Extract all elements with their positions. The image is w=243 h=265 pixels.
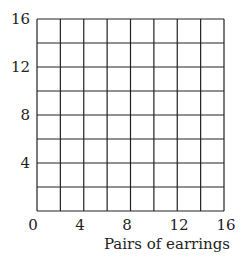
y-tick-4: 4 <box>6 156 30 171</box>
x-axis-label: Pairs of earrings <box>104 236 230 252</box>
x-tick-8: 8 <box>112 218 142 233</box>
y-tick-12: 12 <box>6 60 30 75</box>
x-tick-4: 4 <box>65 218 95 233</box>
x-tick-16: 16 <box>211 218 241 233</box>
y-tick-16: 16 <box>6 12 30 27</box>
x-tick-0: 0 <box>18 218 48 233</box>
x-tick-12: 12 <box>164 218 194 233</box>
coordinate-grid-chart: 16 12 8 4 0 4 8 12 16 Pairs of earrings <box>0 0 243 265</box>
y-tick-8: 8 <box>6 108 30 123</box>
